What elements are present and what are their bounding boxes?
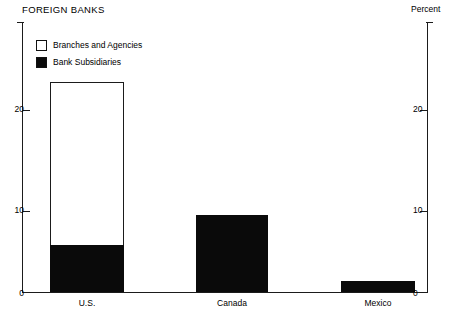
legend-item-bank-subsidiaries: Bank Subsidiaries bbox=[36, 55, 142, 69]
chart-legend: Branches and Agencies Bank Subsidiaries bbox=[36, 38, 142, 72]
bar-segment-us-bank-subsidiaries bbox=[50, 245, 124, 292]
right-axis-line bbox=[427, 22, 428, 293]
x-axis-label-us: U.S. bbox=[50, 299, 124, 308]
left-tick-label-0: 0 bbox=[19, 289, 24, 298]
left-tick-label-20: 20 bbox=[15, 105, 24, 114]
right-tick-label-10: 10 bbox=[413, 206, 422, 215]
bottom-axis-line bbox=[22, 292, 428, 293]
chart-title: FOREIGN BANKS bbox=[22, 4, 105, 15]
legend-label-bank-subsidiaries: Bank Subsidiaries bbox=[53, 58, 121, 67]
right-axis-top-cap bbox=[426, 22, 433, 23]
legend-item-branches-and-agencies: Branches and Agencies bbox=[36, 38, 142, 52]
left-tick-20 bbox=[23, 110, 30, 111]
left-tick-10 bbox=[23, 211, 30, 212]
legend-swatch-filled-icon bbox=[36, 57, 47, 68]
bar-segment-mexico-bank-subsidiaries bbox=[341, 281, 415, 292]
right-tick-label-20: 20 bbox=[413, 105, 422, 114]
legend-label-branches-and-agencies: Branches and Agencies bbox=[53, 41, 142, 50]
bar-segment-us-branches-and-agencies bbox=[50, 82, 124, 246]
left-axis-line bbox=[22, 22, 23, 293]
left-tick-label-10: 10 bbox=[15, 206, 24, 215]
x-axis-label-mexico: Mexico bbox=[341, 299, 415, 308]
foreign-banks-chart: FOREIGN BANKS Percent U.S. Canada Mexico… bbox=[0, 0, 461, 312]
right-tick-label-0: 0 bbox=[413, 289, 418, 298]
legend-swatch-hollow-icon bbox=[36, 40, 47, 51]
bar-group-canada bbox=[196, 23, 268, 292]
x-axis-label-canada: Canada bbox=[196, 299, 268, 308]
bar-group-mexico bbox=[341, 23, 415, 292]
left-axis-top-cap bbox=[17, 22, 24, 23]
y-axis-unit-label: Percent bbox=[411, 5, 440, 14]
bar-segment-canada-bank-subsidiaries bbox=[196, 215, 268, 292]
